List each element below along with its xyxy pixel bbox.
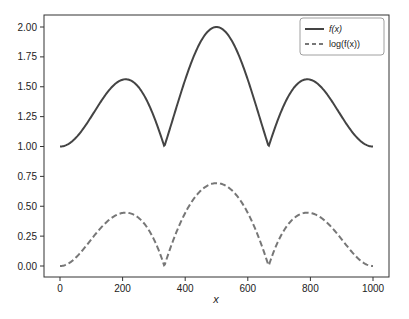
x-tick-label: 1000 bbox=[362, 283, 385, 294]
y-tick-label: 0.50 bbox=[18, 201, 38, 212]
x-tick-label: 400 bbox=[177, 283, 194, 294]
y-tick-label: 1.75 bbox=[18, 51, 38, 62]
x-tick-label: 600 bbox=[239, 283, 256, 294]
y-tick-label: 1.00 bbox=[18, 141, 38, 152]
logfx-line bbox=[60, 183, 373, 266]
legend: f(x) log(f(x)) bbox=[300, 18, 384, 55]
y-tick-label: 0.25 bbox=[18, 231, 38, 242]
legend-label-fx: f(x) bbox=[329, 24, 342, 34]
x-axis-ticks: 02004006008001000 bbox=[57, 277, 384, 294]
x-tick-label: 800 bbox=[302, 283, 319, 294]
y-axis-ticks: 0.000.250.500.751.001.251.501.752.00 bbox=[18, 22, 44, 272]
x-tick-label: 0 bbox=[57, 283, 63, 294]
y-tick-label: 2.00 bbox=[18, 22, 38, 33]
x-axis-label: x bbox=[212, 293, 219, 305]
legend-label-logfx: log(f(x)) bbox=[329, 39, 360, 49]
y-tick-label: 0.00 bbox=[18, 261, 38, 272]
x-tick-label: 200 bbox=[114, 283, 131, 294]
y-tick-label: 0.75 bbox=[18, 171, 38, 182]
plot-lines bbox=[60, 27, 373, 266]
line-chart: 0.000.250.500.751.001.251.501.752.00 020… bbox=[0, 0, 409, 319]
y-tick-label: 1.50 bbox=[18, 81, 38, 92]
y-tick-label: 1.25 bbox=[18, 111, 38, 122]
